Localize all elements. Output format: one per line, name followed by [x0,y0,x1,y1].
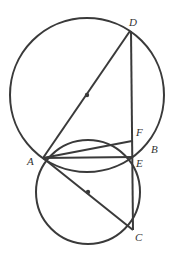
segment-DC [131,31,133,230]
label-B: B [151,143,158,155]
geometry-diagram: D F B A E C [0,0,176,257]
label-A: A [26,155,34,167]
label-F: F [135,126,143,138]
segment-AE [43,157,133,158]
segment-AC [43,158,133,230]
segment-AD [43,31,130,158]
label-E: E [135,157,143,169]
label-D: D [128,16,137,28]
label-C: C [135,231,143,243]
